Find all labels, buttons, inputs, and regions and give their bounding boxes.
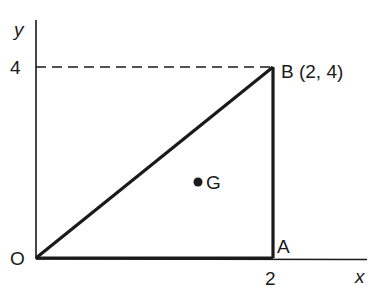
origin-label: O xyxy=(10,248,25,269)
x-axis-label: x xyxy=(354,266,366,287)
point-a-label: A xyxy=(277,236,290,257)
side-ob xyxy=(36,67,273,258)
triangle-diagram: y 4 O A 2 x B (2, 4) G xyxy=(0,0,378,293)
centroid-g-label: G xyxy=(206,172,221,193)
x-tick-label-2: 2 xyxy=(265,268,276,289)
point-b-label: B (2, 4) xyxy=(281,61,343,82)
centroid-g-dot xyxy=(194,178,203,187)
y-axis-label: y xyxy=(12,19,25,40)
y-tick-label-4: 4 xyxy=(10,57,21,78)
